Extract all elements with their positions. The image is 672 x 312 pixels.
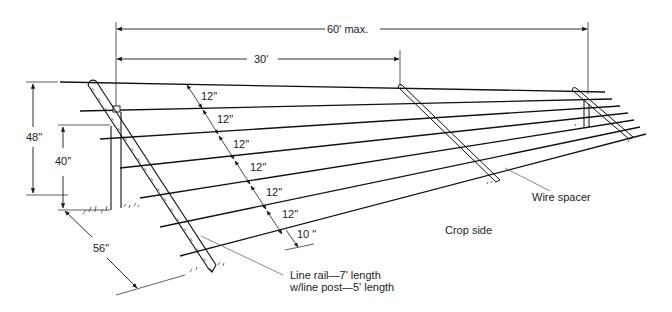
wire-spacer-callout: Wire spacer xyxy=(531,191,592,203)
leader-lines xyxy=(201,168,552,275)
dim-56in xyxy=(65,211,185,295)
wire-spacing-label-1: 12" xyxy=(200,90,218,102)
dim-56in-label: 56" xyxy=(92,242,110,254)
wire-spacing-label-3: 12" xyxy=(232,138,250,150)
line-rail-callout-line1: Line rail—7' length xyxy=(289,269,382,281)
wire-spacing-label-5: 12" xyxy=(265,186,283,198)
wire-spacing-label-4: 12" xyxy=(249,161,267,173)
dim-48in-label: 48" xyxy=(25,131,43,143)
trellis-diagram: 60' max. 30' 48" 40" 56" 12" 12" 12" 12"… xyxy=(0,0,672,312)
dim-40in xyxy=(58,125,110,210)
dim-60ft-label: 60' max. xyxy=(326,23,369,35)
crop-side-label: Crop side xyxy=(444,224,493,236)
line-rail-callout-line2: w/line post—5' length xyxy=(289,281,395,293)
dim-40in-label: 40" xyxy=(54,155,72,167)
trellis-drawing xyxy=(0,0,672,312)
wires xyxy=(60,82,646,256)
wire-spacing-label-7: 10 " xyxy=(296,228,317,240)
dim-30ft-label: 30' xyxy=(253,53,269,65)
wire-spacing-label-2: 12" xyxy=(216,113,234,125)
wire-spacing-label-6: 12" xyxy=(281,208,299,220)
